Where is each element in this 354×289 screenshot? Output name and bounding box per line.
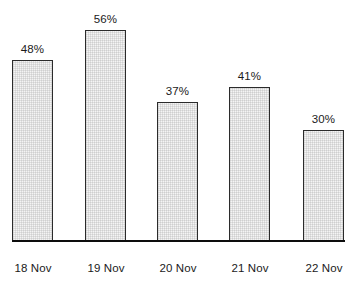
- bar-value-label: 56%: [94, 13, 117, 25]
- x-axis-labels: 18 Nov 19 Nov 20 Nov 21 Nov 22 Nov: [0, 241, 354, 289]
- bar-group-22-nov: 30%: [303, 0, 344, 241]
- bar[interactable]: [85, 30, 126, 241]
- x-axis-tick-label: 21 Nov: [231, 262, 268, 275]
- bar-value-label: 30%: [312, 113, 335, 125]
- bar-group-18-nov: 48%: [12, 0, 53, 241]
- bar[interactable]: [157, 102, 198, 241]
- bar[interactable]: [229, 87, 270, 241]
- bar-value-label: 41%: [238, 70, 261, 82]
- bar-group-21-nov: 41%: [229, 0, 270, 241]
- plot-area: 48% 56% 37% 41% 30%: [0, 0, 354, 241]
- bar[interactable]: [303, 130, 344, 241]
- x-axis-tick-label: 19 Nov: [87, 262, 124, 275]
- bar[interactable]: [12, 60, 53, 241]
- bar-value-label: 48%: [21, 43, 44, 55]
- bar-value-label: 37%: [166, 85, 189, 97]
- x-axis-tick-label: 20 Nov: [159, 262, 196, 275]
- bar-group-19-nov: 56%: [85, 0, 126, 241]
- bar-group-20-nov: 37%: [157, 0, 198, 241]
- x-axis-tick-label: 18 Nov: [14, 262, 51, 275]
- bar-chart: 48% 56% 37% 41% 30% 18 Nov 19 Nov 20 Nov…: [0, 0, 354, 289]
- x-axis-tick-label: 22 Nov: [305, 262, 342, 275]
